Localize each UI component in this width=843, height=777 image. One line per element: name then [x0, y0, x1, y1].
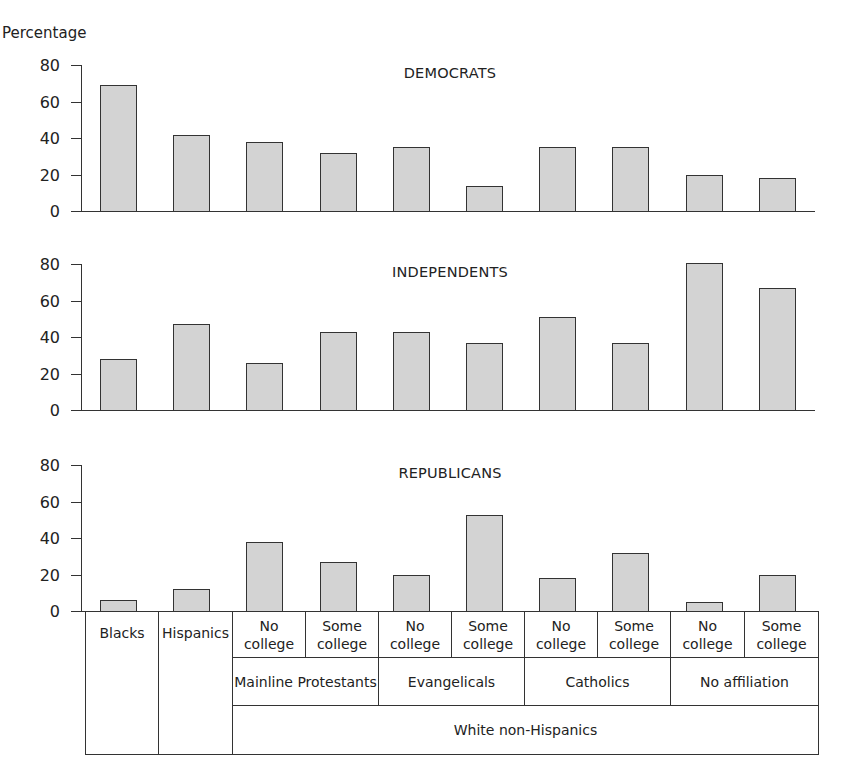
y-tick-label: 60 — [10, 92, 60, 111]
bar — [246, 142, 283, 211]
y-tick-label: 40 — [10, 529, 60, 548]
y-tick-label: 60 — [10, 291, 60, 310]
category-blacks: Blacks — [85, 611, 159, 755]
y-tick — [71, 337, 81, 338]
panel-title: INDEPENDENTS — [392, 264, 508, 280]
bar — [612, 147, 649, 211]
bar — [320, 153, 357, 211]
bar — [759, 178, 796, 211]
y-tick — [71, 301, 81, 302]
y-tick — [71, 410, 81, 411]
bar — [393, 575, 430, 611]
bar — [612, 553, 649, 611]
y-axis — [81, 465, 82, 611]
y-tick-label: 60 — [10, 492, 60, 511]
category-education: No college — [378, 611, 452, 658]
y-tick — [71, 102, 81, 103]
bar — [612, 343, 649, 410]
bar — [686, 175, 723, 211]
category-education: Some college — [744, 611, 819, 658]
bar — [759, 575, 796, 611]
y-tick — [71, 65, 81, 66]
bar — [320, 332, 357, 410]
y-tick — [71, 264, 81, 265]
bar — [100, 85, 137, 211]
category-hispanics: Hispanics — [158, 611, 233, 755]
y-tick-label: 0 — [10, 602, 60, 621]
category-religion: Evangelicals — [378, 657, 525, 706]
bar — [466, 343, 503, 410]
category-religion: Catholics — [524, 657, 671, 706]
category-education: Some college — [451, 611, 525, 658]
bar — [320, 562, 357, 611]
y-tick-label: 0 — [10, 202, 60, 221]
y-tick-label: 80 — [10, 56, 60, 75]
bar — [466, 186, 503, 211]
bar — [539, 578, 576, 611]
category-education: Some college — [305, 611, 379, 658]
bar — [100, 600, 137, 611]
bar — [173, 135, 210, 211]
y-axis — [81, 65, 82, 211]
category-religion: Mainline Protestants — [232, 657, 379, 706]
y-tick-label: 20 — [10, 565, 60, 584]
y-tick — [71, 211, 81, 212]
y-tick-label: 80 — [10, 456, 60, 475]
y-tick-label: 40 — [10, 328, 60, 347]
y-tick — [71, 374, 81, 375]
bar — [173, 589, 210, 611]
bar — [686, 602, 723, 611]
category-education: No college — [670, 611, 745, 658]
y-tick-label: 80 — [10, 255, 60, 274]
y-tick-label: 20 — [10, 364, 60, 383]
bar — [393, 147, 430, 211]
bar — [759, 288, 796, 410]
panel-title: DEMOCRATS — [404, 65, 497, 81]
y-tick — [71, 175, 81, 176]
bar — [173, 324, 210, 410]
bar — [393, 332, 430, 410]
y-axis-label: Percentage — [2, 24, 86, 42]
y-tick-label: 40 — [10, 129, 60, 148]
y-tick — [71, 502, 81, 503]
y-tick — [71, 611, 81, 612]
bar — [246, 363, 283, 410]
category-religion: No affiliation — [670, 657, 819, 706]
y-tick — [71, 465, 81, 466]
category-education: No college — [524, 611, 598, 658]
category-white-non-hispanics: White non-Hispanics — [232, 705, 819, 755]
bar — [539, 147, 576, 211]
bar — [466, 515, 503, 611]
y-tick — [71, 138, 81, 139]
x-axis-baseline — [71, 410, 815, 411]
x-axis-baseline — [71, 211, 815, 212]
bar — [246, 542, 283, 611]
y-tick — [71, 575, 81, 576]
y-tick — [71, 538, 81, 539]
y-tick-label: 20 — [10, 165, 60, 184]
y-tick-label: 0 — [10, 401, 60, 420]
bar — [100, 359, 137, 410]
category-education: Some college — [597, 611, 671, 658]
y-axis — [81, 264, 82, 410]
panel-title: REPUBLICANS — [398, 465, 501, 481]
bar — [686, 263, 723, 410]
bar — [539, 317, 576, 410]
category-education: No college — [232, 611, 306, 658]
